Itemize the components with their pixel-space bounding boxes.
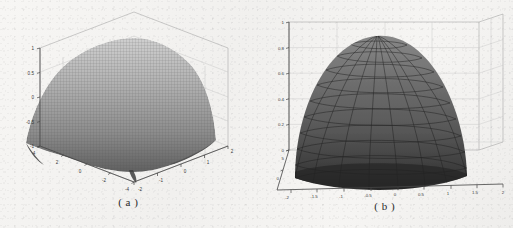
- chart-panel-b: 1 0.8 0.6 0.4 0.2 0 5 0: [257, 0, 513, 228]
- z-tick-b-2: 0.6: [277, 71, 284, 76]
- x-tick-a-3: 1: [207, 160, 210, 165]
- z-tick-a-4: -1: [30, 144, 35, 149]
- z-tick-a-3: -0.5: [26, 120, 34, 125]
- x-tick-b-1: -1.5: [310, 194, 318, 199]
- x-tick-b-7: 1.5: [471, 190, 478, 195]
- x-tick-a-2: 0: [184, 169, 187, 174]
- x-tick-b-2: -1: [339, 194, 343, 199]
- y-tick-a-3: -2: [102, 178, 107, 183]
- x-tick-a-1: -1: [159, 178, 164, 183]
- x-tick-b-5: 0.5: [417, 192, 424, 197]
- z-tick-b-5: 0: [281, 148, 284, 153]
- z-tick-b-1: 0.8: [277, 46, 284, 51]
- chart-panel-a: 1 0.5 0 -0.5 -1 4 2 0 -2: [0, 0, 257, 228]
- panel-caption-b: ( b ): [257, 200, 513, 212]
- x-tick-b-6: 1: [446, 191, 449, 196]
- z-tick-a-1: 0.5: [28, 71, 35, 76]
- z-axis-b: 1 0.8 0.6 0.4 0.2 0: [277, 20, 288, 153]
- figure-container: 1 0.5 0 -0.5 -1 4 2 0 -2: [0, 0, 513, 228]
- y-tick-a-0: 4: [33, 151, 36, 156]
- surface-plot-a: 1 0.5 0 -0.5 -1 4 2 0 -2: [0, 0, 256, 228]
- z-tick-b-4: 0.2: [277, 122, 284, 127]
- z-tick-a-2: 0: [31, 95, 34, 100]
- x-tick-b-8: 2: [501, 190, 504, 195]
- y-tick-a-1: 2: [56, 160, 59, 165]
- x-tick-a-0: -2: [138, 187, 143, 192]
- y-axis-b: 5 0: [276, 150, 288, 190]
- x-tick-a-4: 2: [231, 149, 234, 154]
- y-tick-a-2: 0: [79, 169, 82, 174]
- surface-mesh-b: [295, 36, 467, 190]
- panel-caption-a: ( a ): [0, 196, 257, 208]
- y-tick-b-0: 5: [281, 156, 284, 161]
- z-tick-b-0: 1: [281, 20, 284, 25]
- y-tick-b-1: 0: [276, 176, 279, 181]
- x-tick-b-4: 0: [393, 192, 396, 197]
- surface-plot-b: 1 0.8 0.6 0.4 0.2 0 5 0: [257, 0, 513, 228]
- y-tick-a-4: -4: [125, 187, 130, 192]
- z-tick-b-3: 0.4: [277, 97, 284, 102]
- grid-right-b: [479, 18, 503, 146]
- x-tick-b-3: -0.5: [364, 193, 372, 198]
- z-tick-a-0: 1: [31, 46, 34, 51]
